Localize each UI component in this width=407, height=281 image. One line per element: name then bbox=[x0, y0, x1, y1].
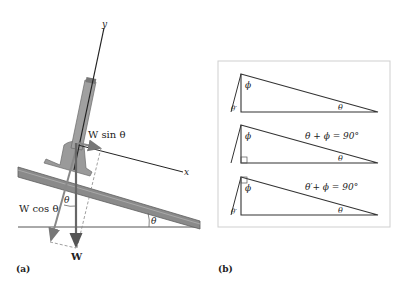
svg-text:θ′: θ′ bbox=[231, 208, 237, 216]
weight-label: W bbox=[70, 251, 83, 262]
svg-text:ϕ: ϕ bbox=[245, 183, 251, 193]
w-sin-label: W sin θ bbox=[88, 129, 125, 140]
y-axis-label: y bbox=[101, 19, 108, 29]
svg-text:ϕ: ϕ bbox=[245, 131, 251, 141]
svg-text:θ′+ ϕ = 90°: θ′+ ϕ = 90° bbox=[305, 182, 358, 192]
incline-board bbox=[18, 167, 200, 229]
svg-text:θ′: θ′ bbox=[231, 105, 237, 113]
panel-b-label: (b) bbox=[218, 264, 233, 274]
svg-text:θ: θ bbox=[338, 154, 343, 163]
svg-text:θ: θ bbox=[338, 206, 343, 215]
theta-vector-label: θ bbox=[64, 195, 70, 205]
svg-text:θ + ϕ = 90°: θ + ϕ = 90° bbox=[305, 131, 359, 141]
w-cos-label: W cos θ bbox=[19, 203, 58, 214]
triangles-box bbox=[218, 61, 390, 227]
panel-a-label: (a) bbox=[16, 264, 30, 274]
panel-b: ϕ θ θ′ ϕ θ θ + ϕ = 90° ϕ θ θ′ θ′+ ϕ = 90… bbox=[218, 61, 390, 274]
panel-a: y x W sin θ W cos θ W θ θ (a) bbox=[16, 19, 200, 274]
svg-text:ϕ: ϕ bbox=[245, 80, 251, 90]
x-axis-label: x bbox=[184, 167, 189, 177]
theta-incline-label: θ bbox=[151, 216, 157, 226]
x-axis bbox=[78, 145, 183, 172]
figure-canvas: y x W sin θ W cos θ W θ θ (a) ϕ θ bbox=[0, 0, 407, 281]
svg-text:θ: θ bbox=[338, 103, 343, 112]
